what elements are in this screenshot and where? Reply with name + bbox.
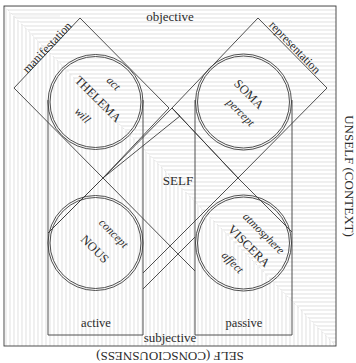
label-active: active (81, 316, 111, 330)
label-self-consciousness: SELF (CONSCIOUSNESS) (96, 349, 244, 363)
label-unself-context: UNSELF (CONTEXT) (342, 115, 356, 237)
label-passive: passive (226, 316, 263, 330)
label-subjective: subjective (144, 330, 197, 345)
self-unself-diagram: objective subjective SELF active passive… (0, 0, 356, 363)
label-self-center: SELF (163, 173, 193, 188)
label-objective: objective (146, 9, 194, 24)
